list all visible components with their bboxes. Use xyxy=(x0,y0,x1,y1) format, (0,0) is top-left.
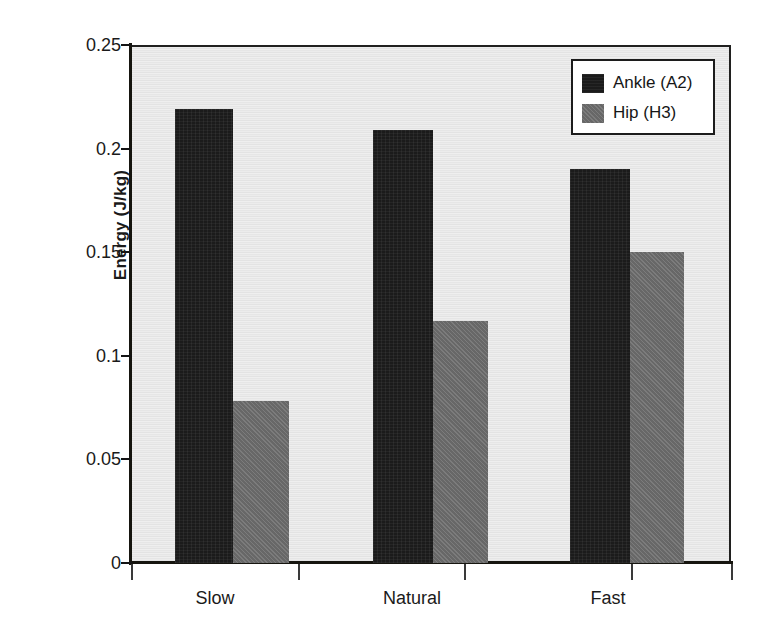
y-tick-mark xyxy=(121,355,132,357)
x-tick-mark xyxy=(464,564,466,580)
legend: Ankle (A2)Hip (H3) xyxy=(571,59,715,135)
y-tick-mark xyxy=(121,458,132,460)
y-tick-label: 0 xyxy=(61,553,121,574)
x-tick-mark xyxy=(631,564,633,580)
y-tick-mark xyxy=(121,251,132,253)
legend-label: Ankle (A2) xyxy=(613,73,692,93)
x-tick-mark xyxy=(731,564,733,580)
y-tick-label: 0.2 xyxy=(61,138,121,159)
bar-slow-ankle xyxy=(175,109,233,563)
bar-chart-figure: Energy (J/kg) 00.050.10.150.20.25 Ankle … xyxy=(0,0,763,640)
y-tick-label: 0.25 xyxy=(61,35,121,56)
legend-item-hip[interactable]: Hip (H3) xyxy=(582,98,705,128)
x-tick-mark xyxy=(298,564,300,580)
y-axis-line xyxy=(129,43,132,565)
x-tick-label-natural: Natural xyxy=(337,588,487,609)
y-tick-label: 0.15 xyxy=(61,242,121,263)
bar-slow-hip xyxy=(233,401,289,563)
legend-label: Hip (H3) xyxy=(613,103,676,123)
bar-fast-ankle xyxy=(570,169,630,563)
y-axis-tick-labels: 00.050.10.150.20.25 xyxy=(55,0,121,640)
x-tick-label-slow: Slow xyxy=(140,588,290,609)
legend-swatch-icon xyxy=(582,104,604,123)
x-tick-mark xyxy=(131,564,133,580)
x-tick-label-fast: Fast xyxy=(533,588,683,609)
legend-swatch-icon xyxy=(582,74,604,93)
y-tick-label: 0.1 xyxy=(61,345,121,366)
bar-fast-hip xyxy=(630,252,684,563)
bar-natural-hip xyxy=(433,321,488,563)
y-tick-label: 0.05 xyxy=(61,449,121,470)
y-tick-mark xyxy=(121,44,132,46)
legend-item-ankle[interactable]: Ankle (A2) xyxy=(582,68,705,98)
bar-natural-ankle xyxy=(373,130,433,563)
y-tick-mark xyxy=(121,148,132,150)
